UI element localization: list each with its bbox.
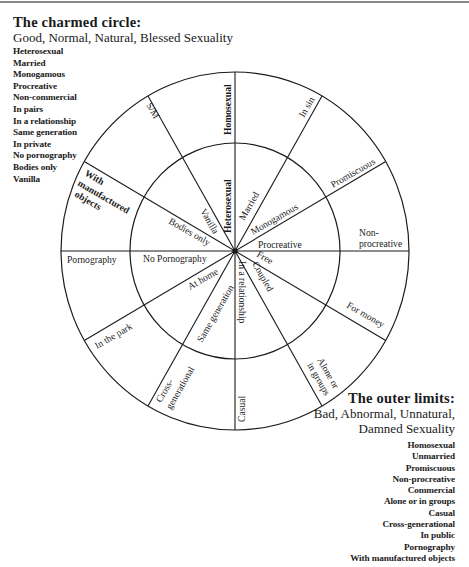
list-item: Non-procreative bbox=[350, 474, 455, 485]
label-married: Married bbox=[236, 190, 261, 222]
list-item: Cross-generational bbox=[350, 519, 455, 530]
label-coupled: Coupled bbox=[250, 260, 276, 294]
list-item: In public bbox=[350, 530, 455, 541]
outer-limits-title: The outer limits: bbox=[348, 390, 455, 407]
label-promiscuous: Promiscuous bbox=[329, 155, 378, 189]
label-procreative: Procreative bbox=[258, 239, 302, 250]
outer-limits-subtitle-line1: Bad, Abnormal, Unnatural, bbox=[314, 406, 455, 422]
label-pornography: Pornography bbox=[67, 254, 117, 265]
center-dot bbox=[232, 248, 237, 253]
label-monogamous: Monogamous bbox=[249, 201, 300, 237]
label-non-procreative-1: Non- bbox=[359, 227, 379, 238]
list-item: Commercial bbox=[350, 485, 455, 496]
label-heterosexual: Heterosexual bbox=[222, 179, 233, 233]
outer-limits-list: Homosexual Unmarried Promiscuous Non-pro… bbox=[350, 440, 455, 564]
list-item: With manufactured objects bbox=[350, 553, 455, 564]
label-in-sin: In sin bbox=[296, 95, 316, 119]
label-for-money: For money bbox=[345, 299, 387, 330]
list-item: Promiscuous bbox=[350, 463, 455, 474]
label-non-procreative-2: procreative bbox=[359, 238, 402, 249]
list-item: Casual bbox=[350, 508, 455, 519]
label-in-a-relationship: In a relationship bbox=[237, 261, 248, 324]
label-no-pornography: No Pornography bbox=[143, 253, 207, 264]
outer-limits-subtitle-line2: Damned Sexuality bbox=[359, 421, 455, 437]
list-item: Pornography bbox=[350, 542, 455, 553]
list-item: Unmarried bbox=[350, 451, 455, 462]
label-homosexual: Homosexual bbox=[222, 84, 233, 135]
inner-labels: Heterosexual Married Monogamous Procreat… bbox=[143, 179, 302, 344]
list-item: Homosexual bbox=[350, 440, 455, 451]
list-item: Alone or in groups bbox=[350, 496, 455, 507]
label-casual: Casual bbox=[236, 396, 247, 422]
label-in-the-park: In the park bbox=[93, 320, 135, 350]
